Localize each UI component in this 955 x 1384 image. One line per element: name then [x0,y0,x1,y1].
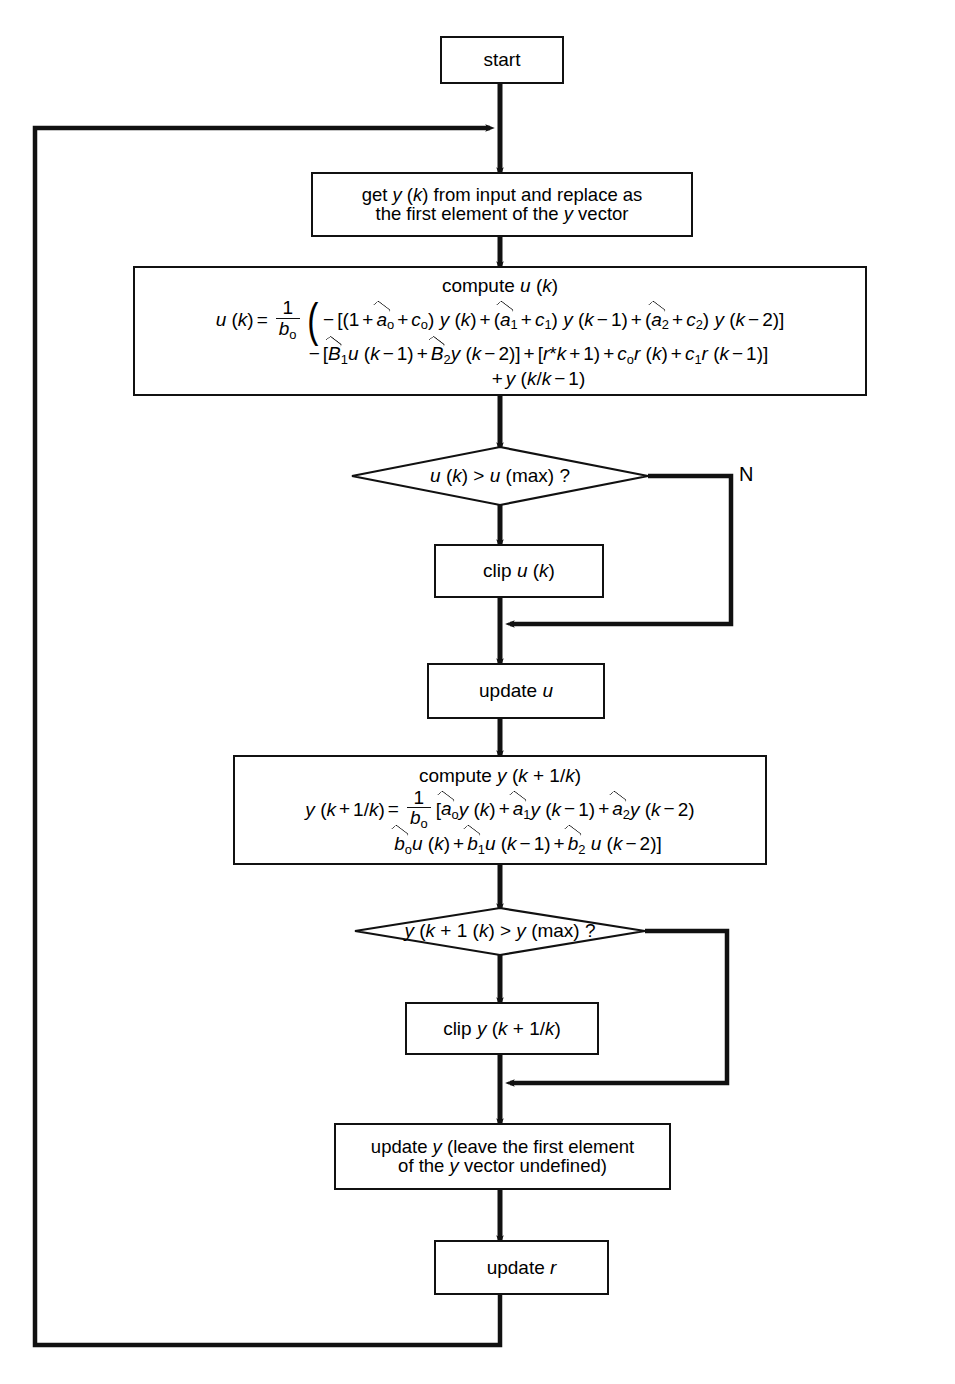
node-update-r-label: update r update r [436,1256,607,1279]
node-clip-y[interactable]: clip y (k + 1/k) clip y (k + 1/k) [405,1002,599,1055]
node-clip-y-label: clip y (k + 1/k) clip y (k + 1/k) [407,1017,597,1040]
node-clip-u[interactable]: clip u (k) clip u (k) [434,544,604,598]
node-update-y[interactable]: update y (leave the first element of the… [334,1123,671,1190]
node-start[interactable]: start [440,36,564,84]
node-get-y-label: get y (k) from input and replace as the … [313,186,691,223]
node-compute-u-eq-line1: u (k)=1bo(−[(1+ao+co) y (k)+(a1+c1) y (k… [141,299,859,342]
node-compute-u-header: compute u (k) [141,274,859,297]
node-update-u-label: update u update u [429,679,603,702]
flowchart-canvas: start get y (k) from input and replace a… [0,0,955,1384]
node-compute-y-header: compute y (k + 1/k) [241,764,759,787]
node-clip-u-label: clip u (k) clip u (k) [436,559,602,582]
node-compute-y-eq-line1: y (k+1/k)=1bo[aoy (k)+a1y (k−1)+a2y (k−2… [241,789,759,832]
node-compute-u-eq-line3: +y (k/k−1) [141,369,859,388]
node-compute-y[interactable]: compute y (k + 1/k) compute y (k + 1/k) … [233,755,767,865]
node-update-y-label: update y (leave the first element of the… [336,1138,669,1175]
node-compute-u-eq-line2: −[B1u (k−1)+B2y (k−2)]+[r*k+1)+cor (k)+c… [141,344,859,367]
branch-label-n-u: N [739,463,753,486]
branch-label-n-u-text: N [739,463,753,485]
node-compute-y-eq-line2: bou (k)+b1u (k−1)+b2 u (k−2)] [241,834,759,857]
node-start-label: start [442,48,562,71]
node-update-r[interactable]: update r update r [434,1240,609,1295]
node-compute-y-body: compute y (k + 1/k) compute y (k + 1/k) … [235,764,765,857]
node-update-u[interactable]: update u update u [427,663,605,719]
node-compute-u-body: compute u (k) compute u (k) u (k)=1bo(−[… [135,274,865,388]
node-get-y[interactable]: get y (k) from input and replace as the … [311,172,693,237]
node-compute-u[interactable]: compute u (k) compute u (k) u (k)=1bo(−[… [133,266,867,396]
